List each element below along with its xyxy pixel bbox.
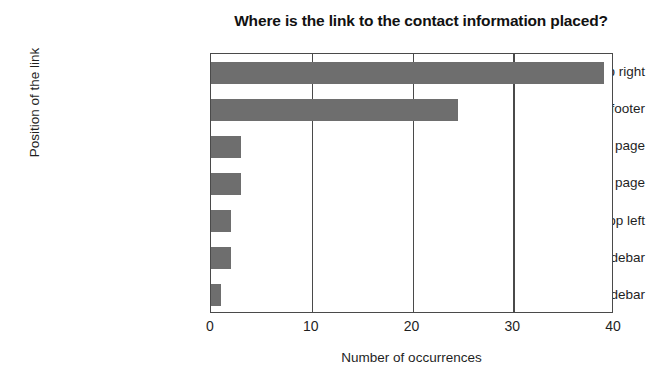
- bar: [211, 284, 221, 306]
- bar: [211, 247, 231, 269]
- bar-row: [211, 240, 614, 277]
- bar-row: [211, 128, 614, 165]
- x-axis-tick-40: 40: [591, 318, 635, 334]
- plot-area: [210, 53, 613, 313]
- x-axis-tick-0: 0: [188, 318, 232, 334]
- y-axis-title: Position of the link: [27, 13, 42, 193]
- bar-row: [211, 203, 614, 240]
- bar-row: [211, 165, 614, 202]
- chart-title: Where is the link to the contact informa…: [188, 12, 654, 30]
- x-axis-tick-20: 20: [390, 318, 434, 334]
- bar-row: [211, 91, 614, 128]
- x-axis-tick-30: 30: [490, 318, 534, 334]
- bar: [211, 173, 241, 195]
- bar: [211, 136, 241, 158]
- bar: [211, 99, 458, 121]
- x-axis-title: Number of occurrences: [210, 350, 613, 365]
- bar: [211, 62, 604, 84]
- bar-row: [211, 54, 614, 91]
- bar: [211, 210, 231, 232]
- bar-chart: Where is the link to the contact informa…: [0, 0, 654, 388]
- bar-row: [211, 277, 614, 314]
- x-axis-tick-10: 10: [289, 318, 333, 334]
